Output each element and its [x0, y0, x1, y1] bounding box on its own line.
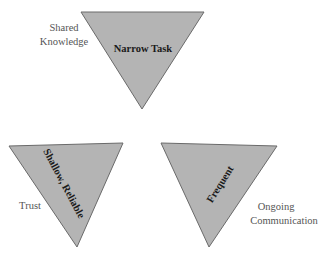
outer-label-knowledge: Knowledge [40, 36, 89, 47]
triangle-bottom-left: Shallow, Reliable [9, 143, 123, 247]
outer-label-shared: Shared [49, 22, 79, 33]
triangle-top-label: Narrow Task [114, 43, 173, 54]
diagram-canvas: Narrow Task Shared Knowledge Shallow, Re… [0, 0, 322, 260]
triangle-bottom-right: Frequent [161, 143, 277, 247]
outer-label-communication: Communication [250, 215, 318, 226]
triangle-top: Narrow Task [81, 12, 204, 109]
outer-label-trust: Trust [19, 200, 41, 211]
outer-label-ongoing: Ongoing [258, 201, 296, 212]
